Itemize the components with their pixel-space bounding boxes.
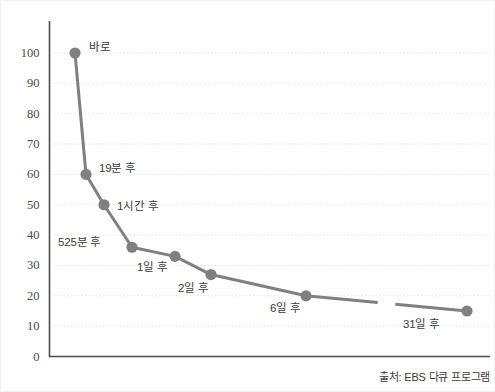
y-axis-tick-label: 70: [10, 138, 40, 151]
data-point-label: 1일 후: [137, 262, 168, 274]
forgetting-curve-chart: 0102030405060708090100 바로19분 후1시간 후525분 …: [0, 0, 495, 392]
data-point-marker: [300, 290, 311, 301]
data-point-marker: [169, 251, 180, 262]
data-point-marker: [461, 305, 472, 316]
data-point-marker: [126, 242, 137, 253]
data-point-markers: [69, 47, 472, 316]
data-line-segment: [132, 247, 175, 256]
data-point-label: 6일 후: [270, 303, 301, 315]
y-axis-tick-label: 50: [10, 199, 40, 212]
y-axis-tick-label: 40: [10, 229, 40, 242]
data-point-label: 바로: [89, 42, 111, 54]
data-point-marker: [205, 269, 216, 280]
data-line-segment: [306, 296, 378, 303]
chart-canvas: [1, 1, 495, 392]
data-line-segments: [75, 53, 467, 311]
y-axis-tick-label: 20: [10, 290, 40, 303]
data-line-segment: [395, 304, 467, 311]
data-point-marker: [80, 169, 91, 180]
data-line-segment: [211, 275, 306, 296]
gridlines: [54, 53, 491, 326]
y-axis-tick-label: 80: [10, 108, 40, 121]
y-axis-tick-label: 0: [10, 351, 40, 364]
data-point-label: 1시간 후: [117, 201, 159, 213]
y-axis-tick-label: 60: [10, 168, 40, 181]
data-point-label: 525분 후: [58, 237, 101, 249]
y-axis-tick-label: 10: [10, 320, 40, 333]
data-line-segment: [75, 53, 86, 174]
data-point-marker: [69, 47, 80, 58]
data-point-label: 2일 후: [178, 283, 209, 295]
data-point-marker: [98, 199, 109, 210]
y-axis-tick-label: 90: [10, 77, 40, 90]
y-axis-tick-label: 100: [10, 47, 40, 60]
data-point-label: 31일 후: [403, 319, 440, 331]
data-point-label: 19분 후: [99, 163, 136, 175]
y-axis-tick-label: 30: [10, 259, 40, 272]
source-note: 출처: EBS 다큐 프로그램: [379, 372, 490, 383]
